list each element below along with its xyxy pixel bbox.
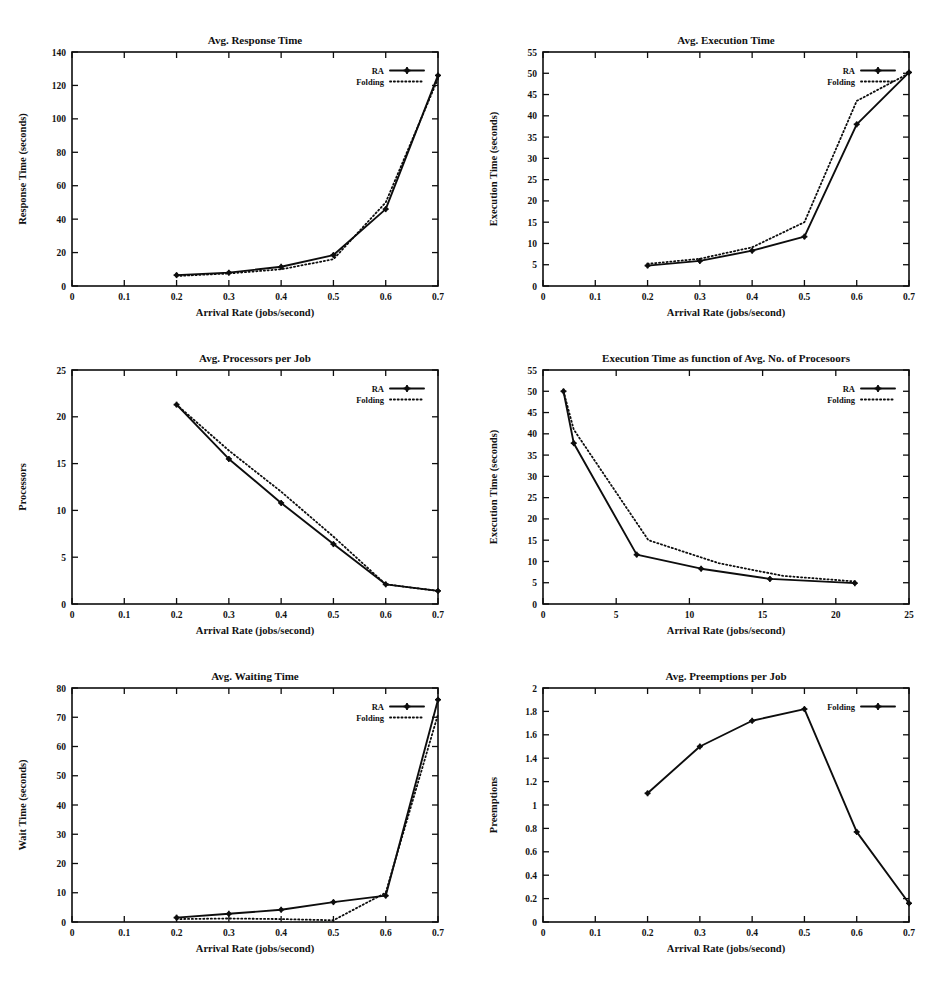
x-tick-label: 0.2 [171, 610, 183, 620]
chart-panel: Avg. Preemptions per Job00.10.20.30.40.5… [471, 658, 941, 974]
legend: RAFolding [356, 66, 424, 87]
y-tick-label: 20 [57, 859, 67, 869]
plot-frame [543, 52, 909, 286]
y-axis-label: Wait Time (seconds) [17, 759, 29, 851]
y-tick-label: 0.8 [525, 824, 537, 834]
x-tick-label: 0.7 [432, 928, 444, 938]
x-tick-label: 0.2 [171, 928, 183, 938]
data-point [435, 72, 441, 78]
legend-marker-icon [404, 385, 411, 392]
legend-label-folding: Folding [827, 395, 856, 405]
y-tick-label: 80 [57, 148, 67, 158]
x-tick-label: 0.3 [223, 292, 235, 302]
y-tick-label: 0 [61, 282, 66, 292]
y-tick-label: 0 [61, 918, 66, 928]
y-tick-label: 0.4 [525, 871, 537, 881]
data-point [801, 706, 807, 712]
y-tick-label: 60 [57, 742, 67, 752]
x-tick-label: 0.6 [851, 292, 863, 302]
y-tick-label: 0 [61, 600, 66, 610]
y-tick-label: 35 [528, 451, 538, 461]
y-tick-label: 140 [52, 48, 67, 58]
plot-frame [72, 688, 438, 922]
legend: Folding [827, 702, 895, 712]
data-point [767, 576, 773, 582]
y-tick-label: 30 [528, 154, 538, 164]
legend: RAFolding [827, 384, 895, 405]
x-tick-label: 0.3 [694, 928, 706, 938]
x-tick-label: 0.4 [275, 928, 287, 938]
chart-title: Avg. Processors per Job [199, 352, 311, 364]
y-tick-label: 55 [528, 366, 538, 376]
legend-label-folding: Folding [356, 713, 385, 723]
y-tick-label: 40 [528, 429, 538, 439]
y-tick-label: 35 [528, 133, 538, 143]
x-tick-label: 0.3 [223, 610, 235, 620]
chart-avg-preemptions-per-job: Avg. Preemptions per Job00.10.20.30.40.5… [471, 658, 941, 974]
x-tick-label: 0.7 [432, 292, 444, 302]
x-tick-label: 0.6 [380, 610, 392, 620]
x-tick-label: 0.4 [275, 610, 287, 620]
legend-label-folding: Folding [827, 702, 856, 712]
x-tick-label: 0.5 [327, 292, 339, 302]
y-tick-label: 30 [528, 472, 538, 482]
x-tick-label: 20 [831, 610, 841, 620]
x-tick-label: 0 [70, 292, 75, 302]
x-tick-label: 0.3 [694, 292, 706, 302]
x-tick-label: 0.7 [903, 928, 915, 938]
y-tick-label: 45 [528, 90, 538, 100]
legend: RAFolding [356, 384, 424, 405]
chart-title: Avg. Waiting Time [211, 670, 299, 682]
x-tick-label: 0.5 [798, 928, 810, 938]
y-tick-label: 5 [532, 578, 537, 588]
series-line-ra [648, 72, 909, 265]
y-axis-label: Processors [17, 463, 28, 511]
y-tick-label: 70 [57, 713, 67, 723]
x-tick-label: 5 [614, 610, 619, 620]
legend-label-ra: RA [372, 702, 385, 712]
data-point [226, 911, 232, 917]
x-tick-label: 0.7 [432, 610, 444, 620]
series-line-folding [648, 73, 909, 264]
x-tick-label: 15 [758, 610, 768, 620]
y-tick-label: 60 [57, 181, 67, 191]
x-tick-label: 0 [70, 928, 75, 938]
y-tick-label: 20 [528, 514, 538, 524]
legend-marker-icon [875, 703, 882, 710]
chart-avg-execution-time: Avg. Execution Time00.10.20.30.40.50.60.… [471, 22, 941, 338]
legend-label-ra: RA [372, 384, 385, 394]
series-line-ra [177, 405, 438, 591]
chart-panel: Avg. Waiting Time00.10.20.30.40.50.60.70… [0, 658, 470, 974]
x-tick-label: 0.2 [642, 292, 654, 302]
series-line-ra [177, 75, 438, 275]
x-tick-label: 0.1 [589, 292, 601, 302]
x-axis-label: Arrival Rate (jobs/second) [667, 625, 786, 637]
y-tick-label: 1.4 [525, 754, 537, 764]
x-axis-label: Arrival Rate (jobs/second) [196, 307, 315, 319]
chart-execution-time-vs-processors: Execution Time as function of Avg. No. o… [471, 340, 941, 656]
chart-title: Execution Time as function of Avg. No. o… [602, 352, 851, 364]
y-tick-label: 20 [57, 248, 67, 258]
y-tick-label: 20 [57, 412, 67, 422]
data-point [330, 899, 336, 905]
chart-avg-response-time: Avg. Response Time00.10.20.30.40.50.60.7… [0, 22, 470, 338]
figure-sheet: Avg. Response Time00.10.20.30.40.50.60.7… [0, 0, 941, 987]
y-tick-label: 10 [57, 888, 67, 898]
y-tick-label: 1 [532, 801, 537, 811]
y-axis-label: Execution Time (seconds) [488, 111, 500, 226]
x-axis-label: Arrival Rate (jobs/second) [667, 307, 786, 319]
chart-avg-processors-per-job: Avg. Processors per Job00.10.20.30.40.50… [0, 340, 470, 656]
x-tick-label: 0.5 [798, 292, 810, 302]
x-tick-label: 0.4 [746, 928, 758, 938]
y-tick-label: 120 [52, 81, 67, 91]
x-tick-label: 0.4 [275, 292, 287, 302]
x-tick-label: 0.6 [380, 928, 392, 938]
series-line-folding [177, 714, 438, 920]
x-tick-label: 0.6 [851, 928, 863, 938]
chart-title: Avg. Response Time [208, 34, 303, 46]
plot-frame [72, 370, 438, 604]
x-tick-label: 0 [70, 610, 75, 620]
x-tick-label: 0.5 [327, 610, 339, 620]
data-point [278, 907, 284, 913]
x-tick-label: 0.1 [118, 292, 130, 302]
